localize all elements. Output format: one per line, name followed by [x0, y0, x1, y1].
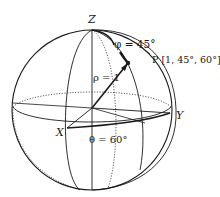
- point-p-marker: [126, 61, 130, 65]
- rho-label: ρ = 1: [93, 72, 120, 83]
- y-axis: [92, 108, 170, 113]
- meridian-left: [65, 30, 92, 190]
- meridian-right: [92, 30, 143, 170]
- rho-vector: [92, 63, 128, 108]
- spherical-coordinate-diagram: Z X Y φ = 45° P [1, 45°, 60°] ρ = 1 θ = …: [0, 0, 220, 197]
- x-axis-label: X: [55, 126, 65, 139]
- phi-label: φ = 45°: [114, 38, 155, 50]
- theta-label: θ = 60°: [89, 134, 127, 145]
- horizontal-back-line: [13, 103, 92, 108]
- point-p-label: P [1, 45°, 60°]: [152, 54, 220, 65]
- x-axis: [67, 108, 92, 128]
- y-axis-label: Y: [176, 109, 185, 122]
- z-axis-label: Z: [87, 13, 96, 26]
